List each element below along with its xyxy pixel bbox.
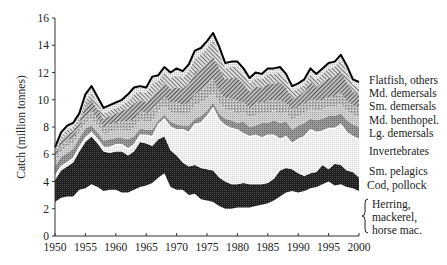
x-tick-label: 1965: [135, 241, 158, 253]
x-tick-label: 1955: [74, 241, 97, 253]
y-tick-label: 8: [43, 121, 49, 133]
x-tick-label: 1990: [287, 241, 310, 253]
brace-icon: [362, 199, 368, 233]
legend-flatfish: Flatfish, others: [369, 74, 439, 87]
y-tick-label: 6: [43, 148, 49, 160]
legend-md-benthopel: Md. benthopel.: [369, 114, 439, 127]
legend-invertebrates: Invertebrates: [369, 145, 430, 157]
x-tick-label: 1985: [256, 241, 279, 253]
y-tick-label: 10: [38, 94, 50, 106]
x-tick-label: 1960: [104, 241, 127, 253]
legend: Flatfish, others Md. demersals Sm. demer…: [362, 74, 439, 236]
stacked-area-chart: 0246810121416 19501955196019651970197519…: [0, 0, 447, 265]
y-axis-title: Catch (million tonnes): [15, 75, 28, 179]
y-tick-label: 2: [43, 203, 49, 215]
legend-herring-line1: Herring,: [372, 198, 411, 211]
y-tick-label: 14: [38, 39, 50, 51]
area-layers: [55, 33, 359, 236]
y-tick-label: 16: [38, 12, 50, 24]
x-tick-label: 2000: [348, 241, 371, 253]
x-tick-label: 1975: [196, 241, 219, 253]
legend-md-demersals: Md. demersals: [369, 87, 437, 99]
legend-sm-pelagics: Sm. pelagics: [369, 165, 428, 178]
y-ticks: 0246810121416: [38, 12, 56, 242]
y-tick-label: 4: [43, 176, 49, 188]
x-tick-label: 1980: [226, 241, 249, 253]
x-tick-label: 1995: [317, 241, 340, 253]
legend-herring-line2: mackerel,: [372, 211, 417, 224]
legend-lg-demersals: Lg. demersals: [369, 127, 434, 140]
x-tick-label: 1950: [44, 241, 67, 253]
legend-sm-demersals: Sm. demersals: [369, 100, 437, 112]
y-tick-label: 12: [38, 67, 50, 79]
chart-canvas: 0246810121416 19501955196019651970197519…: [0, 0, 447, 265]
x-tick-label: 1970: [165, 241, 188, 253]
legend-herring-line3: horse mac.: [372, 224, 422, 236]
legend-cod-pollock: Cod, pollock: [367, 179, 427, 192]
